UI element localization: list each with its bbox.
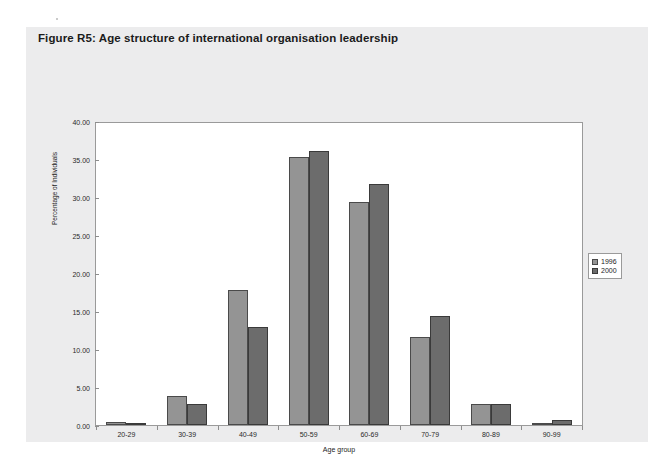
x-tick-label: 40-49	[218, 431, 279, 438]
y-axis-tick-labels: 0.005.0010.0015.0020.0025.0030.0035.0040…	[54, 122, 90, 426]
x-tick-mark	[218, 426, 219, 430]
bar	[369, 184, 389, 425]
y-tick-label: 25.00	[56, 233, 90, 240]
x-tick-mark	[96, 426, 97, 430]
legend-label: 2000	[601, 266, 617, 275]
x-tick-mark	[400, 426, 401, 430]
legend-swatch-icon	[592, 259, 598, 265]
x-tick-mark	[339, 426, 340, 430]
bar-group	[96, 123, 157, 425]
x-tick-mark	[521, 426, 522, 430]
x-tick-mark	[157, 426, 158, 430]
x-axis-title: Age group	[96, 446, 582, 453]
x-tick-label: 80-89	[461, 431, 522, 438]
y-tick-label: 30.00	[56, 195, 90, 202]
y-tick-label: 5.00	[56, 385, 90, 392]
chart-area: Percentage of Individuals 0.005.0010.001…	[26, 57, 648, 442]
legend-item: 2000	[592, 266, 617, 275]
legend-swatch-icon	[592, 268, 598, 274]
x-tick-mark	[278, 426, 279, 430]
bar-group	[521, 123, 582, 425]
bar-group	[278, 123, 339, 425]
bars-layer	[96, 123, 582, 425]
bar	[471, 404, 491, 425]
y-tick-label: 10.00	[56, 347, 90, 354]
legend-item: 1996	[592, 257, 617, 266]
bar	[532, 423, 552, 425]
bar	[228, 290, 248, 425]
bar	[430, 316, 450, 425]
y-tick-label: 20.00	[56, 271, 90, 278]
x-tick-mark	[461, 426, 462, 430]
figure-panel: Figure R5: Age structure of internationa…	[26, 27, 648, 442]
x-tick-label: 30-39	[157, 431, 218, 438]
legend-label: 1996	[601, 257, 617, 266]
bar	[248, 327, 268, 425]
bar	[167, 396, 187, 425]
x-tick-mark	[582, 426, 583, 430]
x-tick-label: 50-59	[278, 431, 339, 438]
bar	[126, 423, 146, 425]
bar	[491, 404, 511, 425]
page-speck-artifact	[56, 18, 58, 20]
bar-group	[157, 123, 218, 425]
figure-title: Figure R5: Age structure of internationa…	[38, 32, 398, 44]
bar	[349, 202, 369, 425]
bar-group	[218, 123, 279, 425]
bar-group	[339, 123, 400, 425]
bar	[289, 157, 309, 425]
bar	[106, 422, 126, 425]
bar	[309, 151, 329, 425]
chart-legend: 19962000	[588, 253, 622, 279]
y-tick-label: 0.00	[56, 423, 90, 430]
bar	[187, 404, 207, 425]
bar	[410, 337, 430, 425]
bar-group	[400, 123, 461, 425]
bar-group	[461, 123, 522, 425]
x-axis-tick-labels: 20-2930-3940-4950-5960-6970-7980-8990-99	[96, 431, 582, 438]
y-tick-label: 15.00	[56, 309, 90, 316]
x-tick-label: 90-99	[521, 431, 582, 438]
x-tick-label: 60-69	[339, 431, 400, 438]
bar	[552, 420, 572, 425]
y-tick-label: 40.00	[56, 119, 90, 126]
x-tick-label: 70-79	[400, 431, 461, 438]
y-tick-label: 35.00	[56, 157, 90, 164]
x-tick-label: 20-29	[96, 431, 157, 438]
